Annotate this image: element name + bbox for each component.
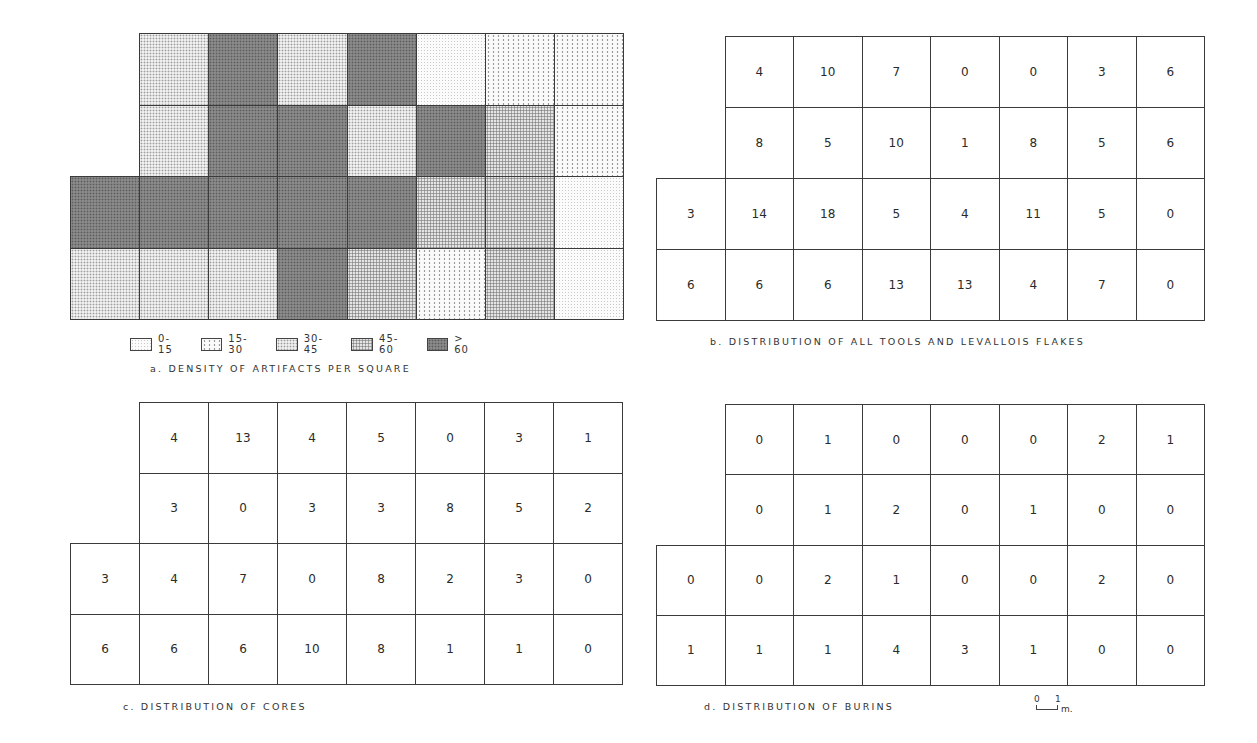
grid-cell: 0 <box>1136 474 1206 545</box>
grid-cell <box>554 248 624 321</box>
grid-cell <box>347 33 417 106</box>
grid-cell: 0 <box>725 404 795 475</box>
caption-d: d. DISTRIBUTION OF BURINS <box>704 701 894 712</box>
grid-cell: 0 <box>930 474 1000 545</box>
legend-item: 0-15 <box>130 333 179 355</box>
grid-cell <box>277 33 347 106</box>
grid-cell <box>485 105 555 178</box>
caption-b: b. DISTRIBUTION OF ALL TOOLS AND LEVALLO… <box>710 336 1085 347</box>
grid-cell: 1 <box>793 474 863 545</box>
grid-cell: 2 <box>862 474 932 545</box>
grid-cell: 1 <box>793 404 863 475</box>
legend-label: 0-15 <box>158 333 179 355</box>
grid-cell: 1 <box>999 474 1069 545</box>
grid-cell <box>485 33 555 106</box>
grid-cell: 3 <box>484 543 554 615</box>
grid-cell: 1 <box>656 615 726 686</box>
grid-cell: 0 <box>1136 178 1206 250</box>
burins-grid: 010002101201000021002011143100 <box>656 404 1204 685</box>
grid-cell <box>139 33 209 106</box>
grid-cell: 1 <box>484 614 554 686</box>
grid-cell: 4 <box>277 402 347 474</box>
grid-cell: 0 <box>862 404 932 475</box>
grid-cell: 5 <box>1067 178 1137 250</box>
grid-cell: 6 <box>793 249 863 321</box>
legend-item: 30-45 <box>276 333 329 355</box>
grid-cell <box>416 105 486 178</box>
grid-cell: 3 <box>656 178 726 250</box>
grid-cell: 18 <box>793 178 863 250</box>
legend-swatch <box>351 338 373 351</box>
grid-cell: 0 <box>277 543 347 615</box>
legend-item: 15-30 <box>201 333 254 355</box>
grid-cell <box>416 176 486 249</box>
grid-cell <box>139 105 209 178</box>
grid-cell: 10 <box>277 614 347 686</box>
grid-cell: 4 <box>139 543 209 615</box>
grid-cell: 8 <box>346 614 416 686</box>
grid-cell: 4 <box>930 178 1000 250</box>
grid-cell: 6 <box>725 249 795 321</box>
grid-cell <box>208 105 278 178</box>
grid-cell: 3 <box>139 473 209 545</box>
grid-cell: 0 <box>208 473 278 545</box>
grid-cell <box>70 248 140 321</box>
grid-cell: 6 <box>208 614 278 686</box>
grid-cell: 1 <box>1136 404 1206 475</box>
scale-one-label: 1 <box>1055 694 1061 704</box>
density-grid <box>70 33 623 319</box>
grid-cell: 6 <box>656 249 726 321</box>
grid-cell <box>277 248 347 321</box>
grid-cell: 11 <box>999 178 1069 250</box>
grid-cell <box>416 33 486 106</box>
grid-cell: 10 <box>862 107 932 179</box>
tools-grid: 4107003685101856314185411506661313470 <box>656 36 1204 320</box>
grid-cell: 6 <box>70 614 140 686</box>
grid-cell: 2 <box>1067 404 1137 475</box>
grid-cell: 0 <box>553 614 623 686</box>
grid-cell: 3 <box>1067 36 1137 108</box>
grid-cell: 2 <box>793 545 863 616</box>
grid-cell: 0 <box>1136 545 1206 616</box>
grid-cell: 7 <box>862 36 932 108</box>
grid-cell <box>208 248 278 321</box>
grid-cell: 5 <box>793 107 863 179</box>
grid-cell <box>416 248 486 321</box>
grid-cell: 0 <box>1136 615 1206 686</box>
grid-cell: 5 <box>1067 107 1137 179</box>
grid-cell: 3 <box>277 473 347 545</box>
grid-cell: 1 <box>553 402 623 474</box>
legend-label: 30-45 <box>304 333 330 355</box>
grid-cell: 8 <box>415 473 485 545</box>
grid-cell: 7 <box>1067 249 1137 321</box>
grid-cell <box>208 33 278 106</box>
legend-label: > 60 <box>454 333 475 355</box>
grid-cell: 4 <box>862 615 932 686</box>
grid-cell: 0 <box>725 474 795 545</box>
grid-cell: 7 <box>208 543 278 615</box>
legend-swatch <box>276 338 298 351</box>
grid-cell: 2 <box>415 543 485 615</box>
grid-cell: 1 <box>725 615 795 686</box>
grid-cell: 8 <box>725 107 795 179</box>
grid-cell <box>554 176 624 249</box>
grid-cell: 0 <box>656 545 726 616</box>
grid-cell: 2 <box>1067 545 1137 616</box>
grid-cell <box>554 33 624 106</box>
caption-c: c. DISTRIBUTION OF CORES <box>123 701 307 712</box>
grid-cell: 13 <box>862 249 932 321</box>
grid-cell: 2 <box>553 473 623 545</box>
grid-cell: 0 <box>999 36 1069 108</box>
grid-cell: 5 <box>862 178 932 250</box>
grid-cell: 0 <box>1136 249 1206 321</box>
grid-cell: 1 <box>862 545 932 616</box>
grid-cell <box>277 176 347 249</box>
grid-cell: 1 <box>793 615 863 686</box>
grid-cell: 0 <box>553 543 623 615</box>
grid-cell: 6 <box>1136 107 1206 179</box>
grid-cell: 4 <box>725 36 795 108</box>
legend-swatch <box>201 338 223 351</box>
legend-label: 15-30 <box>228 333 254 355</box>
grid-cell: 1 <box>930 107 1000 179</box>
grid-cell <box>347 105 417 178</box>
